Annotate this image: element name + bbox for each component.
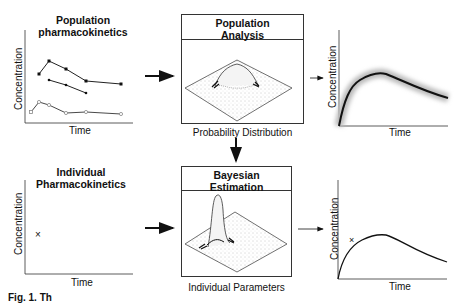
fitted-observation-marker: × xyxy=(349,235,354,245)
pop-pk-axes xyxy=(25,30,133,123)
individual-distribution-surface xyxy=(185,195,287,272)
pop-curve-axes xyxy=(339,30,448,126)
ind-curve-axes: × xyxy=(338,180,447,279)
ind-pk-axes xyxy=(25,180,133,274)
population-distribution-surface xyxy=(185,60,292,121)
